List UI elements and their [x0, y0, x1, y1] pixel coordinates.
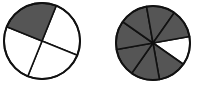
fraction-circle-eighths — [116, 6, 190, 80]
fraction-circle-quarters — [4, 3, 80, 79]
fraction-circles-figure — [0, 0, 205, 88]
